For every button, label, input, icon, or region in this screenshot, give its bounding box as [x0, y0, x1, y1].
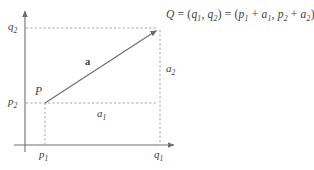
guide-lines-group — [26, 28, 160, 144]
vector-a-label: a — [85, 57, 90, 68]
y-axis-tick-label-q2: q2 — [8, 21, 17, 35]
q-equation-close1: ) = ( — [218, 8, 239, 20]
component-a2-sub: 2 — [172, 68, 176, 77]
component-a2-label: a2 — [166, 63, 175, 77]
diagram-canvas — [0, 0, 314, 170]
y-tick-p2-sub: 2 — [14, 101, 18, 110]
vector-a-group — [45, 31, 157, 104]
axes-group — [14, 11, 174, 152]
point-q-equation-label: Q = (q1, q2) = (p1 + a1, p2 + a2) — [166, 9, 314, 23]
component-a1-label: a1 — [97, 108, 106, 122]
x-tick-q1-sub: 1 — [160, 154, 164, 163]
vector-diagram-figure: Q = (q1, q2) = (p1 + a1, p2 + a2) q2 p2 … — [0, 0, 314, 170]
x-axis-tick-label-q1: q1 — [154, 149, 163, 163]
y-axis-tick-label-p2: p2 — [8, 96, 17, 110]
x-tick-p1-sub: 1 — [45, 154, 49, 163]
q-equation-plus2: + — [288, 8, 301, 20]
vector-a-arrow — [45, 31, 157, 104]
x-axis-tick-label-p1: p1 — [39, 149, 48, 163]
point-p-label: P — [35, 86, 42, 98]
q-equation-plus1: + — [249, 8, 262, 20]
q-equation-close2: ) — [311, 8, 314, 20]
q-symbol: Q — [166, 8, 175, 20]
q-equation-eq1: = ( — [175, 8, 192, 20]
y-tick-q2-sub: 2 — [14, 26, 18, 35]
component-a1-sub: 1 — [103, 113, 107, 122]
